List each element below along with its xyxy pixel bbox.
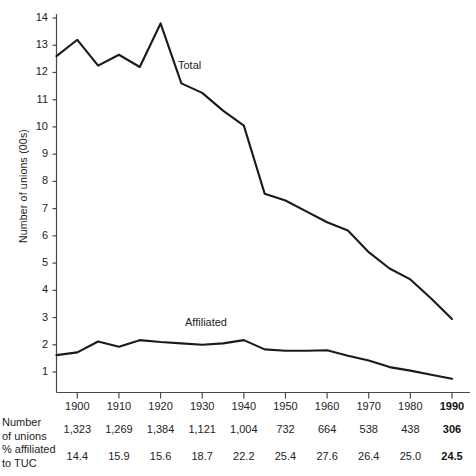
table-cell: 1,384 — [139, 423, 183, 435]
y-axis-tick-label: 12 — [18, 65, 48, 77]
table-cell: 306 — [430, 423, 474, 435]
table-row-header: Numberof unions — [2, 416, 47, 443]
y-axis-tick-label: 6 — [18, 229, 48, 241]
y-axis-tick-label: 5 — [18, 256, 48, 268]
line-series-total — [57, 23, 453, 318]
table-row-header-line: of unions — [2, 430, 47, 444]
y-axis-tick-label: 2 — [18, 338, 48, 350]
table-cell: 14.4 — [55, 450, 99, 462]
data-table: Numberof unions% affiliatedto TUC 1,3231… — [0, 398, 476, 476]
table-cell: 1,121 — [180, 423, 224, 435]
table-cell: 15.6 — [139, 450, 183, 462]
table-row-header-line: % affiliated — [2, 443, 56, 457]
table-cell: 22.2 — [222, 450, 266, 462]
y-axis-tick-label: 4 — [18, 283, 48, 295]
y-axis-tick-label: 8 — [18, 174, 48, 186]
data-series-group — [57, 23, 453, 378]
y-axis-tick-label: 3 — [18, 311, 48, 323]
table-cell: 664 — [305, 423, 349, 435]
table-cell: 25.0 — [388, 450, 432, 462]
table-cell: 1,004 — [222, 423, 266, 435]
table-cell: 26.4 — [347, 450, 391, 462]
axes — [53, 14, 471, 399]
y-axis-tick-label: 1 — [18, 365, 48, 377]
table-cell: 1,269 — [97, 423, 141, 435]
y-axis-tick-label: 13 — [18, 38, 48, 50]
chart-figure: Number of unions (00s) 12345678910111213… — [0, 0, 476, 476]
table-cell: 25.4 — [263, 450, 307, 462]
table-cell: 438 — [388, 423, 432, 435]
table-cell: 538 — [347, 423, 391, 435]
line-series-affiliated — [57, 340, 453, 379]
table-cell: 27.6 — [305, 450, 349, 462]
table-cell: 18.7 — [180, 450, 224, 462]
table-cell: 24.5 — [430, 450, 474, 462]
table-cell: 15.9 — [97, 450, 141, 462]
y-axis-tick-label: 10 — [18, 120, 48, 132]
table-cell: 1,323 — [55, 423, 99, 435]
series-annotation-affiliated: Affiliated — [185, 316, 227, 328]
y-axis-tick-label: 11 — [18, 93, 48, 105]
y-axis-tick-label: 14 — [18, 11, 48, 23]
table-row-header-line: to TUC — [2, 457, 56, 471]
y-axis-tick-label: 7 — [18, 202, 48, 214]
series-annotation-total: Total — [178, 59, 201, 71]
table-row-header-line: Number — [2, 416, 47, 430]
table-cell: 732 — [263, 423, 307, 435]
y-axis-tick-label: 9 — [18, 147, 48, 159]
table-row-header: % affiliatedto TUC — [2, 443, 56, 470]
